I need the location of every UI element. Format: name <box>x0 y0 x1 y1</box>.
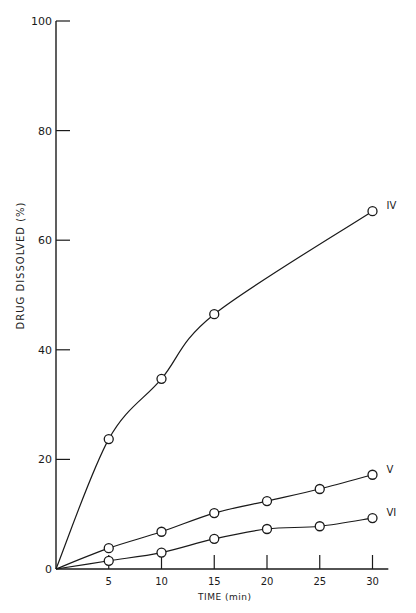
y-tick-label: 40 <box>38 344 52 357</box>
data-point-marker <box>263 497 272 506</box>
data-point-marker <box>368 470 377 479</box>
data-point-marker <box>157 548 166 557</box>
dissolution-chart: 02040608010051015202530IVVVI <box>0 0 416 613</box>
data-point-marker <box>315 522 324 531</box>
data-point-marker <box>157 527 166 536</box>
x-tick-label: 20 <box>261 576 274 587</box>
data-point-marker <box>315 484 324 493</box>
data-point-marker <box>368 207 377 216</box>
series-label-V: V <box>387 464 394 475</box>
data-point-marker <box>210 509 219 518</box>
y-tick-label: 60 <box>38 234 52 247</box>
x-axis-label: TIME (min) <box>198 592 251 602</box>
data-point-marker <box>157 374 166 383</box>
data-point-marker <box>210 534 219 543</box>
x-tick-label: 25 <box>313 576 326 587</box>
data-point-marker <box>263 524 272 533</box>
x-tick-label: 15 <box>208 576 221 587</box>
data-point-marker <box>210 310 219 319</box>
y-tick-label: 80 <box>38 125 52 138</box>
y-tick-label: 100 <box>31 15 52 28</box>
x-tick-label: 5 <box>106 576 112 587</box>
series-label-IV: IV <box>387 200 397 211</box>
y-tick-label: 20 <box>38 453 52 466</box>
y-axis-label: DRUG DISSOLVED (%) <box>15 196 26 336</box>
data-point-marker <box>368 514 377 523</box>
series-label-VI: VI <box>387 507 397 518</box>
x-tick-label: 30 <box>366 576 379 587</box>
y-tick-label: 0 <box>45 563 52 576</box>
series-line-V <box>56 475 373 569</box>
x-tick-label: 10 <box>155 576 168 587</box>
data-point-marker <box>104 544 113 553</box>
data-point-marker <box>104 556 113 565</box>
data-point-marker <box>104 435 113 444</box>
